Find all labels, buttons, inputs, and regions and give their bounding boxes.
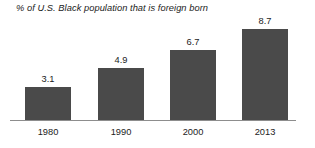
bar-group-1990: 4.9 <box>98 18 144 120</box>
x-axis-baseline <box>10 120 296 121</box>
bar-group-1980: 3.1 <box>25 18 71 120</box>
chart-title: % of U.S. Black population that is forei… <box>16 3 208 13</box>
x-tick-label: 2013 <box>242 125 288 139</box>
x-tick-label: 2000 <box>170 125 216 139</box>
bar <box>98 68 144 120</box>
bar-value-label: 6.7 <box>170 38 216 47</box>
bar <box>25 87 71 120</box>
bar-value-label: 8.7 <box>242 17 288 26</box>
bar <box>170 50 216 120</box>
bar-group-2013: 8.7 <box>242 18 288 120</box>
bar <box>242 29 288 120</box>
bar-value-label: 4.9 <box>98 56 144 65</box>
x-tick-label: 1990 <box>98 125 144 139</box>
x-axis-tick-labels: 1980 1990 2000 2013 <box>10 125 296 141</box>
bar-value-label: 3.1 <box>25 75 71 84</box>
bar-chart-figure: % of U.S. Black population that is forei… <box>0 0 315 148</box>
x-tick-label: 1980 <box>25 125 71 139</box>
bar-group-2000: 6.7 <box>170 18 216 120</box>
plot-area: 3.1 4.9 6.7 8.7 <box>10 18 296 120</box>
